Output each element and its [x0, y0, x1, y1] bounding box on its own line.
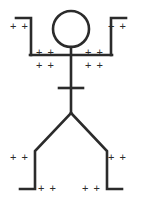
- plus-marker-right-shoulder-inner: + +: [85, 47, 104, 58]
- plus-marker-left-shoulder-below: + +: [36, 60, 55, 71]
- head-circle: [53, 11, 89, 47]
- plus-marker-left-knee: + +: [10, 152, 29, 163]
- plus-marker-right-shoulder-below: + +: [85, 60, 104, 71]
- stick-figure-diagram: + + + + + + + + + + + + + + + + + + + +: [0, 0, 143, 212]
- plus-marker-left-hand: + +: [10, 21, 29, 32]
- plus-marker-left-foot: + +: [38, 183, 57, 194]
- plus-marker-right-hand: + +: [108, 21, 127, 32]
- plus-marker-right-knee: + +: [108, 152, 127, 163]
- plus-marker-right-foot: + +: [82, 183, 101, 194]
- plus-marker-left-shoulder-inner: + +: [36, 47, 55, 58]
